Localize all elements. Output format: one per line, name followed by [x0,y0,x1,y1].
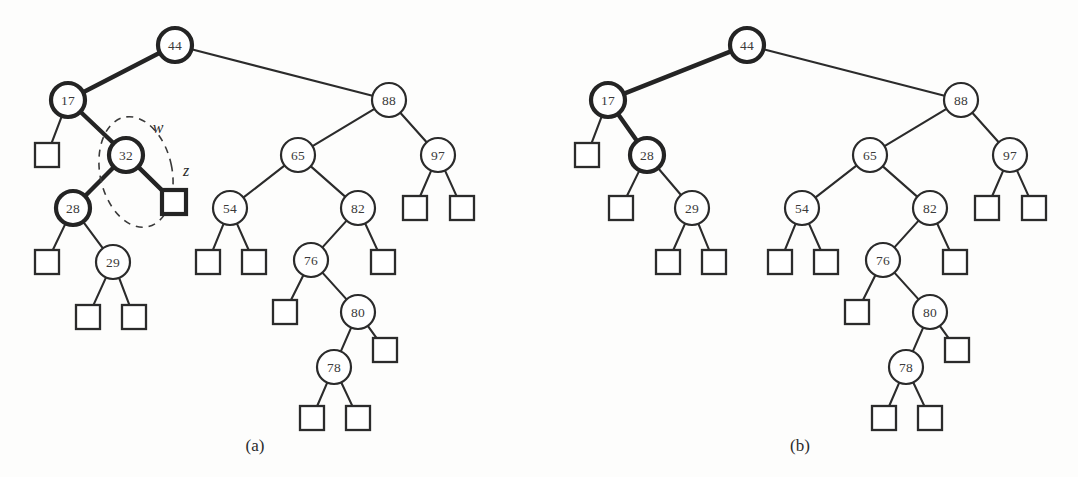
panel-a-annotations: wz [153,119,190,179]
tree-edge [317,382,328,407]
tree-edge [1017,170,1029,197]
tree-node-label: 80 [351,305,365,320]
external-leaf-node [814,250,838,274]
external-leaf-node [918,406,942,430]
tree-node-label: 82 [923,201,937,216]
tree-node-label: 65 [291,148,305,163]
annotation-label-z: z [182,162,190,179]
external-leaf-node [945,338,969,362]
external-leaf-node [575,143,599,167]
external-leaf-node [373,338,397,362]
panel-b-group: 441788286597295482768078 [575,28,1046,430]
external-leaf-node [35,250,59,274]
external-leaf-node [702,250,726,274]
tree-edge [815,165,858,198]
external-leaf-node [656,250,680,274]
tree-edge [119,277,130,306]
tree-edge [913,381,925,407]
external-leaf-node [845,300,869,324]
tree-edge [445,170,457,197]
tree-node-label: 76 [876,253,890,268]
tree-edge [341,381,353,407]
tree-node-label: 88 [954,93,968,108]
tree-edge [762,49,945,96]
tree-node-label: 29 [106,255,120,270]
tree-node-label: 78 [327,360,341,375]
tree-node-label: 78 [899,360,913,375]
tree-edge [400,112,428,143]
tree-edge [312,108,376,146]
tree-edge [82,52,161,92]
panel-a-group: 44178832659728548229768078 wz [35,28,474,430]
tree-node-label: 17 [601,93,615,108]
tree-edge [992,170,1004,197]
tree-edge [236,223,249,251]
tree-edge [623,51,732,94]
binary-search-tree-figure: 44178832659728548229768078 wz 4417882865… [0,0,1078,477]
tree-node-label: 97 [431,148,445,163]
external-leaf-node [300,406,324,430]
external-leaf-node [872,406,896,430]
tree-edge [84,166,114,196]
tree-edge [52,222,66,251]
tree-edge [93,277,106,307]
tree-edge [365,223,378,252]
tree-edge [884,108,948,146]
external-leaf-node [196,250,220,274]
tree-edge [340,327,351,353]
tree-edge [882,166,918,198]
tree-edge [310,166,346,198]
external-leaf-node [403,196,427,220]
tree-node-label: 82 [351,201,365,216]
tree-edge [657,167,681,196]
tree-edge [420,170,432,197]
tree-edge [894,272,920,300]
tree-edge [889,382,900,407]
tree-node-label: 54 [795,201,809,216]
tree-edge [862,274,875,301]
external-leaf-node [943,250,967,274]
tree-edge [51,115,62,144]
tree-edge [626,169,640,197]
tree-node-label: 29 [685,201,699,216]
tree-edge [673,223,686,251]
annotation-label-w: w [153,119,164,136]
tree-node-label: 76 [304,253,318,268]
tree-node-label: 97 [1003,148,1017,163]
panel-b-leaves [575,143,1046,430]
tree-node-label: 44 [168,38,182,53]
tree-node-label: 80 [923,305,937,320]
panel-caption-b: (b) [790,436,810,455]
tree-edge [698,223,709,251]
external-leaf-node [450,196,474,220]
tree-edge [243,165,286,198]
tree-node-label: 44 [740,38,754,53]
tree-edge [894,220,920,248]
tree-edge [591,115,602,144]
external-leaf-node [35,143,59,167]
external-leaf-node [609,196,633,220]
tree-node-label: 65 [863,148,877,163]
external-leaf-node [122,305,146,329]
tree-edge [290,274,303,301]
external-leaf-node [768,250,792,274]
external-leaf-node [371,250,395,274]
tree-edge [190,49,373,96]
tree-edge [213,223,224,251]
external-leaf-node [273,300,297,324]
tree-edge [322,220,348,248]
tree-edge [617,113,637,142]
tree-edge [808,223,821,251]
panel-caption-a: (a) [246,436,265,455]
tree-node-label: 28 [66,201,80,216]
tree-node-label: 28 [640,148,654,163]
tree-edge [937,223,950,252]
tree-node-label: 88 [382,93,396,108]
external-leaf-node [76,305,100,329]
panel-captions: (a)(b) [246,436,810,455]
tree-edge [322,272,348,300]
external-leaf-node [242,250,266,274]
external-leaf-node [975,196,999,220]
external-leaf-node [162,190,186,214]
tree-node-label: 54 [223,201,237,216]
